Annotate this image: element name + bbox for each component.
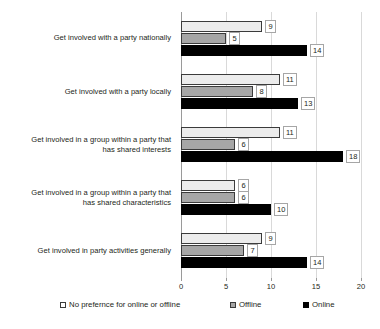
- bar-1[interactable]: [181, 192, 235, 203]
- bar-row: 13: [181, 98, 361, 109]
- x-axis: 05101520: [181, 278, 361, 294]
- bar-2[interactable]: [181, 257, 307, 268]
- bar-value-label: 6: [238, 138, 249, 151]
- bar-1[interactable]: [181, 33, 226, 44]
- bar-group: 11813: [181, 74, 361, 110]
- legend-label: No prefernce for online or offline: [69, 299, 180, 311]
- legend-item[interactable]: No prefernce for online or offline: [60, 299, 180, 311]
- black-square-icon: [303, 302, 309, 308]
- bar-value-label: 10: [274, 203, 288, 216]
- bar-value-label: 9: [265, 20, 276, 33]
- bar-value-label: 6: [238, 191, 249, 204]
- x-tick-label: 10: [267, 282, 275, 292]
- bar-group: 9714: [181, 233, 361, 269]
- bar-2[interactable]: [181, 151, 343, 162]
- x-tick-0: [181, 278, 182, 281]
- bar-1[interactable]: [181, 139, 235, 150]
- bar-group: 9514: [181, 21, 361, 57]
- legend-item[interactable]: Offline: [230, 299, 261, 311]
- bar-value-label: 7: [247, 244, 258, 257]
- legend-item[interactable]: Online: [303, 299, 335, 311]
- bar-value-label: 11: [283, 126, 297, 139]
- bar-row: 6: [181, 192, 361, 203]
- plot-area: 9514118131161866109714: [181, 12, 361, 278]
- category-label-line: Get involved in party activities general…: [0, 246, 171, 257]
- category-label-line: has shared interests: [0, 145, 171, 156]
- bar-value-label: 8: [256, 85, 267, 98]
- category-label-line: Get involved in a group within a party t…: [0, 135, 171, 146]
- bar-2[interactable]: [181, 204, 271, 215]
- category-label-line: Get involved with a party locally: [0, 87, 171, 98]
- bar-0[interactable]: [181, 21, 262, 32]
- x-tick-label: 0: [179, 282, 183, 292]
- category-label: Get involved in a group within a party t…: [0, 135, 171, 156]
- category-label-line: has shared characteristics: [0, 198, 171, 209]
- category-label: Get involved with a party nationally: [0, 33, 171, 44]
- bar-row: 9: [181, 21, 361, 32]
- bar-row: 14: [181, 257, 361, 268]
- category-label-line: Get involved in a group within a party t…: [0, 188, 171, 199]
- chart-legend: No prefernce for online or offlineOfflin…: [0, 299, 380, 315]
- bar-row: 10: [181, 204, 361, 215]
- category-label: Get involved in party activities general…: [0, 246, 171, 257]
- bar-row: 14: [181, 45, 361, 56]
- bar-value-label: 14: [310, 256, 324, 269]
- bar-row: 7: [181, 245, 361, 256]
- bar-group: 11618: [181, 127, 361, 163]
- bar-0[interactable]: [181, 233, 262, 244]
- x-tick-label: 5: [224, 282, 228, 292]
- bar-row: 5: [181, 33, 361, 44]
- bar-row: 18: [181, 151, 361, 162]
- bar-row: 11: [181, 74, 361, 85]
- bar-0[interactable]: [181, 74, 280, 85]
- category-label-line: Get involved with a party nationally: [0, 33, 171, 44]
- white-square-icon: [60, 302, 66, 308]
- bar-value-label: 18: [346, 150, 360, 163]
- bar-value-label: 11: [283, 73, 297, 86]
- x-tick-20: [361, 278, 362, 281]
- bar-groups: 9514118131161866109714: [181, 12, 361, 278]
- gridline-20: [361, 12, 362, 278]
- bar-0[interactable]: [181, 180, 235, 191]
- grouped-bar-chart: Get involved with a party nationallyGet …: [0, 0, 380, 329]
- category-label: Get involved in a group within a party t…: [0, 188, 171, 209]
- x-tick-label: 15: [312, 282, 320, 292]
- x-tick-10: [271, 278, 272, 281]
- legend-label: Online: [312, 299, 335, 311]
- bar-0[interactable]: [181, 127, 280, 138]
- category-axis-labels: Get involved with a party nationallyGet …: [0, 12, 175, 278]
- category-label: Get involved with a party locally: [0, 87, 171, 98]
- x-tick-label: 20: [357, 282, 365, 292]
- bar-row: 6: [181, 180, 361, 191]
- bar-row: 8: [181, 86, 361, 97]
- bar-2[interactable]: [181, 45, 307, 56]
- bar-2[interactable]: [181, 98, 298, 109]
- gray-square-icon: [230, 302, 236, 308]
- bar-1[interactable]: [181, 245, 244, 256]
- bar-row: 9: [181, 233, 361, 244]
- x-tick-5: [226, 278, 227, 281]
- legend-label: Offline: [239, 299, 261, 311]
- x-tick-15: [316, 278, 317, 281]
- bar-value-label: 9: [265, 232, 276, 245]
- bar-1[interactable]: [181, 86, 253, 97]
- bar-value-label: 5: [229, 32, 240, 45]
- bar-value-label: 14: [310, 44, 324, 57]
- bar-value-label: 13: [301, 97, 315, 110]
- bar-row: 11: [181, 127, 361, 138]
- bar-group: 6610: [181, 180, 361, 216]
- bar-row: 6: [181, 139, 361, 150]
